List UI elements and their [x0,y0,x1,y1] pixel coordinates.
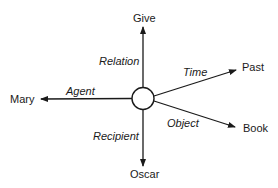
edge-agent [41,99,132,100]
label-recipient: Recipient [93,131,139,142]
node-oscar: Oscar [130,169,159,180]
label-relation: Relation [99,56,139,67]
node-past: Past [242,62,264,73]
node-mary: Mary [10,94,34,105]
label-agent: Agent [66,86,95,97]
label-time: Time [183,67,207,78]
node-book: Book [243,123,268,134]
center-node [132,88,154,110]
label-object: Object [167,118,199,129]
case-frame-diagram [0,0,278,188]
node-give: Give [133,13,156,24]
